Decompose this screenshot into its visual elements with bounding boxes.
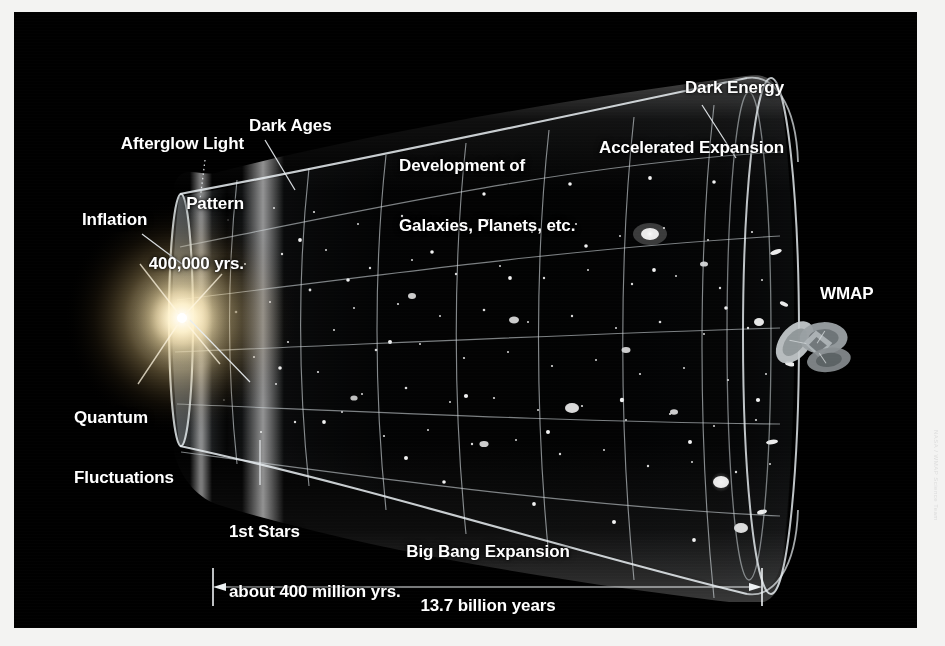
label-quantum-fluctuations: Quantum Fluctuations [74,368,174,528]
figure-root: Afterglow Light Pattern 400,000 yrs. Dar… [0,0,945,646]
label-wmap: WMAP [820,284,873,304]
label-inflation: Inflation [82,210,147,230]
quantum-line-2: Fluctuations [74,468,174,488]
first-stars-line-1: 1st Stars [229,522,401,542]
development-line-2: Galaxies, Planets, etc. [399,216,575,236]
afterglow-line-3: 400,000 yrs. [14,254,244,274]
dark-energy-line-2: Accelerated Expansion [454,138,784,158]
afterglow-line-1: Afterglow Light [14,134,244,154]
label-dark-energy: Dark Energy Accelerated Expansion [454,38,784,198]
credit-line: NASA / WMAP Science Team [925,430,939,620]
illustration-plate: Afterglow Light Pattern 400,000 yrs. Dar… [14,12,917,628]
quantum-line-1: Quantum [74,408,174,428]
dark-energy-line-1: Dark Energy [454,78,784,98]
label-duration: 13.7 billion years [314,596,662,616]
label-dark-ages: Dark Ages [249,116,332,136]
label-big-bang-expansion: Big Bang Expansion [314,542,662,562]
label-afterglow-light-pattern: Afterglow Light Pattern 400,000 yrs. [14,94,244,315]
